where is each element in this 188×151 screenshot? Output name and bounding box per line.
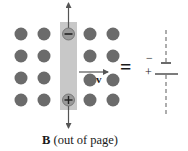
motional-emf-diagram: v = − + B (out of page)	[0, 0, 188, 151]
battery-plus-label: +	[145, 66, 152, 78]
field-dot-icon	[15, 72, 28, 85]
field-dot-icon	[38, 72, 51, 85]
field-dot-icon	[84, 74, 97, 87]
field-dot-icon	[84, 94, 97, 107]
field-dot-icon	[15, 94, 28, 107]
negative-charge-icon	[63, 28, 75, 40]
field-dot-icon	[107, 28, 120, 41]
battery-minus-label: −	[146, 52, 153, 64]
field-dot-icon	[38, 28, 51, 41]
equals-sign: =	[120, 57, 131, 77]
diagram-canvas	[0, 0, 188, 151]
positive-charge-icon	[63, 94, 75, 106]
field-dot-icon	[38, 94, 51, 107]
field-dot-icon	[107, 94, 120, 107]
field-dot-icon	[15, 28, 28, 41]
battery-symbol-icon	[155, 30, 178, 115]
field-dot-icon	[107, 74, 120, 87]
field-dot-icon	[15, 50, 28, 63]
field-dot-icon	[107, 50, 120, 63]
velocity-label: v	[96, 73, 102, 85]
field-dot-icon	[84, 28, 97, 41]
field-caption: B (out of page)	[42, 133, 118, 148]
field-dot-icon	[38, 50, 51, 63]
field-dot-icon	[84, 50, 97, 63]
field-direction-text: (out of page)	[50, 133, 118, 147]
